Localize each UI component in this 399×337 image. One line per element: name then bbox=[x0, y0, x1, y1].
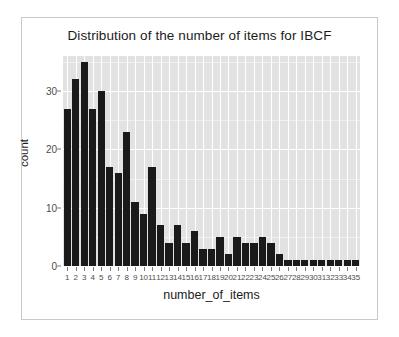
bar bbox=[233, 237, 240, 266]
x-tick-mark bbox=[110, 267, 111, 271]
y-tick-label: 10 bbox=[46, 202, 57, 213]
bar bbox=[64, 109, 71, 267]
y-tick-mark bbox=[57, 207, 61, 208]
x-tick-mark bbox=[313, 267, 314, 271]
bar bbox=[284, 260, 291, 266]
bar bbox=[199, 249, 206, 267]
bar bbox=[301, 260, 308, 266]
bar bbox=[72, 79, 79, 266]
x-tick-label: 5 bbox=[99, 272, 103, 283]
x-tick-mark bbox=[178, 267, 179, 271]
bar bbox=[98, 91, 105, 266]
bar bbox=[344, 260, 351, 266]
x-tick-mark bbox=[330, 267, 331, 271]
bar bbox=[259, 237, 266, 266]
x-tick-label: 9 bbox=[133, 272, 137, 283]
x-tick-mark bbox=[271, 267, 272, 271]
bar bbox=[131, 202, 138, 266]
bar bbox=[165, 243, 172, 266]
x-tick-label: 2 bbox=[73, 272, 77, 283]
x-tick-label: 35 bbox=[351, 272, 360, 283]
bar bbox=[310, 260, 317, 266]
y-axis-title: count bbox=[18, 118, 30, 188]
chart-figure: Distribution of the number of items for … bbox=[0, 0, 399, 337]
x-tick-mark bbox=[118, 267, 119, 271]
x-axis-title: number_of_items bbox=[63, 288, 360, 302]
x-tick-mark bbox=[228, 267, 229, 271]
bar bbox=[293, 260, 300, 266]
x-tick-label: 4 bbox=[90, 272, 94, 283]
x-tick-mark bbox=[152, 267, 153, 271]
x-tick-mark bbox=[305, 267, 306, 271]
x-tick-mark bbox=[195, 267, 196, 271]
bar bbox=[174, 225, 181, 266]
bar bbox=[250, 243, 257, 266]
x-tick-label: 1 bbox=[65, 272, 69, 283]
x-tick-mark bbox=[84, 267, 85, 271]
plot-panel bbox=[63, 56, 360, 266]
bar bbox=[115, 173, 122, 266]
x-tick-mark bbox=[322, 267, 323, 271]
x-tick-label: 7 bbox=[116, 272, 120, 283]
bar bbox=[352, 260, 359, 266]
x-tick-mark bbox=[93, 267, 94, 271]
bar bbox=[327, 260, 334, 266]
x-tick-mark bbox=[237, 267, 238, 271]
x-tick-mark bbox=[67, 267, 68, 271]
x-tick-mark bbox=[356, 267, 357, 271]
bar bbox=[318, 260, 325, 266]
y-tick-label: 20 bbox=[46, 144, 57, 155]
bar bbox=[216, 237, 223, 266]
y-tick-label: 30 bbox=[46, 86, 57, 97]
x-tick-mark bbox=[347, 267, 348, 271]
x-tick-mark bbox=[186, 267, 187, 271]
bar bbox=[267, 243, 274, 266]
x-tick-mark bbox=[144, 267, 145, 271]
x-tick-mark bbox=[76, 267, 77, 271]
x-tick-label: 11 bbox=[148, 272, 156, 283]
x-tick-mark bbox=[279, 267, 280, 271]
y-tick-mark bbox=[57, 91, 61, 92]
bar bbox=[106, 167, 113, 266]
x-tick-mark bbox=[220, 267, 221, 271]
x-tick-mark bbox=[203, 267, 204, 271]
bar bbox=[140, 214, 147, 267]
x-tick-mark bbox=[254, 267, 255, 271]
x-tick-mark bbox=[288, 267, 289, 271]
bar bbox=[182, 243, 189, 266]
bar bbox=[335, 260, 342, 266]
x-axis-tick-labels: 1234567891011121314151617181920212223242… bbox=[63, 272, 360, 284]
x-tick-label: 10 bbox=[139, 272, 148, 283]
y-axis-ticks bbox=[57, 56, 63, 266]
y-tick-mark bbox=[57, 266, 61, 267]
x-tick-mark bbox=[212, 267, 213, 271]
x-tick-mark bbox=[262, 267, 263, 271]
x-tick-mark bbox=[296, 267, 297, 271]
bar-series bbox=[63, 56, 360, 266]
x-tick-label: 6 bbox=[107, 272, 111, 283]
x-tick-label: 3 bbox=[82, 272, 86, 283]
x-tick-mark bbox=[101, 267, 102, 271]
bar bbox=[123, 132, 130, 266]
bar bbox=[148, 167, 155, 266]
bar bbox=[208, 249, 215, 267]
x-tick-mark bbox=[135, 267, 136, 271]
bar bbox=[225, 254, 232, 266]
bar bbox=[157, 225, 164, 266]
x-tick-mark bbox=[161, 267, 162, 271]
bar bbox=[276, 254, 283, 266]
y-tick-mark bbox=[57, 149, 61, 150]
chart-title: Distribution of the number of items for … bbox=[21, 28, 378, 43]
x-tick-mark bbox=[169, 267, 170, 271]
x-tick-mark bbox=[127, 267, 128, 271]
bar bbox=[81, 62, 88, 266]
bar bbox=[89, 109, 96, 267]
bar bbox=[242, 243, 249, 266]
x-tick-mark bbox=[339, 267, 340, 271]
bar bbox=[191, 231, 198, 266]
x-tick-mark bbox=[245, 267, 246, 271]
x-tick-label: 8 bbox=[124, 272, 128, 283]
